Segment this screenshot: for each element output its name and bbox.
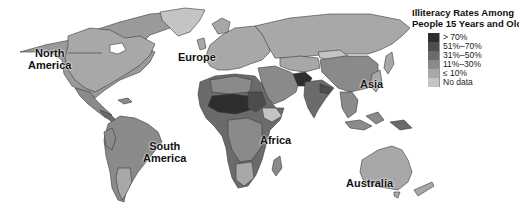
label-africa: Africa [260,134,291,146]
legend-swatch [428,42,440,51]
label-north-america: North America [28,47,71,71]
legend-swatch [428,51,440,60]
label-europe: Europe [178,51,216,63]
label-south-america: South America [143,140,186,164]
legend-swatch [428,60,440,69]
legend-row-under-10: ≤ 10% [428,69,519,78]
legend-entries: > 70% 51%–70% 31%–50% 11%–30% ≤ 10% No d… [428,33,519,87]
region-australia [360,146,434,198]
legend-row-11-30: 11%–30% [428,60,519,69]
legend-title-line1: Illiteracy Rates Among [412,8,519,19]
map-legend: Illiteracy Rates Among People 15 Years a… [412,8,519,87]
label-asia: Asia [360,78,383,90]
legend-swatch [428,69,440,78]
legend-title-line2: People 15 Years and Older [412,19,519,30]
label-australia: Australia [346,177,393,189]
legend-row-no-data: No data [428,78,519,87]
legend-swatch [428,33,440,42]
legend-swatch [428,78,440,87]
